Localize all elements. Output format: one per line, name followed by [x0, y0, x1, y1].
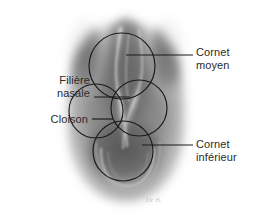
circle-filiere-nasale [111, 80, 167, 136]
label-cloison: Cloison [0, 113, 88, 126]
annotation-overlay [0, 0, 254, 220]
label-cornet-inferieur-line1: Cornet [196, 138, 237, 151]
label-filiere-nasale: Filière nasale [0, 74, 90, 99]
radiograph-image [0, 0, 254, 220]
label-cornet-moyen: Cornet moyen [196, 46, 230, 71]
label-cloison-line1: Cloison [0, 113, 88, 126]
label-cornet-inferieur: Cornet inférieur [196, 138, 237, 163]
artist-signature: Dr B. [146, 196, 162, 204]
label-filiere-nasale-line1: Filière [0, 74, 90, 87]
label-cornet-inferieur-line2: inférieur [196, 151, 237, 164]
circle-cornet-moyen [89, 33, 155, 99]
label-cornet-moyen-line2: moyen [196, 59, 230, 72]
label-cornet-moyen-line1: Cornet [196, 46, 230, 59]
circle-cornet-inferieur [93, 121, 153, 181]
figure-root: Cornet moyen Filière nasale Cloison Corn… [0, 0, 254, 220]
label-filiere-nasale-line2: nasale [0, 87, 90, 100]
